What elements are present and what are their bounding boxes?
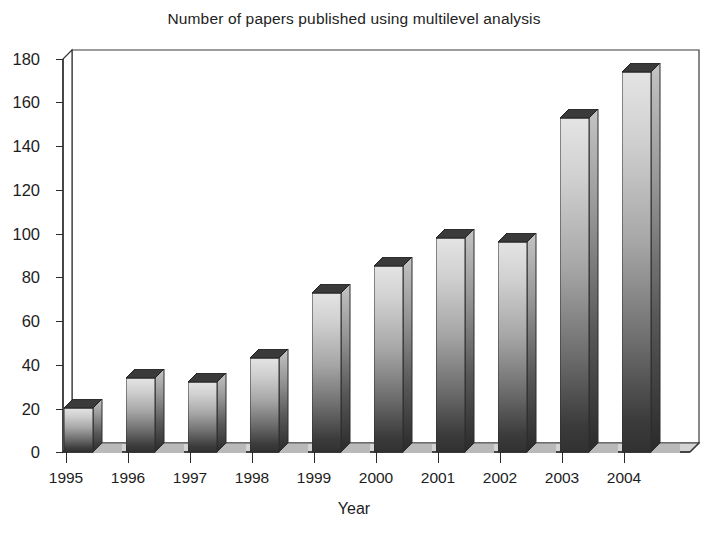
bar-1999[interactable] xyxy=(312,284,350,452)
bar-3d-faces xyxy=(64,399,104,454)
x-tick-label-2003: 2003 xyxy=(545,469,579,487)
x-tick-mark xyxy=(66,452,67,463)
x-tick-label-1995: 1995 xyxy=(49,469,83,487)
bar-3d-faces xyxy=(126,369,166,454)
x-axis-title: Year xyxy=(0,500,708,518)
x-tick-label-1999: 1999 xyxy=(297,469,331,487)
y-tick-label: 100 xyxy=(0,225,40,244)
y-tick-mark xyxy=(56,277,63,278)
y-tick-label: 60 xyxy=(0,312,40,331)
x-tick-mark xyxy=(562,452,563,463)
x-tick-label-1997: 1997 xyxy=(173,469,207,487)
y-tick-label: 20 xyxy=(0,400,40,419)
y-tick-mark xyxy=(56,190,63,191)
x-tick-mark xyxy=(376,452,377,463)
bar-1995[interactable] xyxy=(64,399,102,452)
bar-1996[interactable] xyxy=(126,369,164,452)
bar-3d-faces xyxy=(188,373,228,454)
x-tick-label-1996: 1996 xyxy=(111,469,145,487)
y-tick-mark xyxy=(56,146,63,147)
bar-1998[interactable] xyxy=(250,349,288,452)
y-tick-label: 80 xyxy=(0,268,40,287)
chart-container: Number of papers published using multile… xyxy=(0,0,708,534)
x-tick-label-2000: 2000 xyxy=(359,469,393,487)
y-tick-mark xyxy=(56,102,63,103)
x-tick-label-2004: 2004 xyxy=(607,469,641,487)
y-tick-label: 160 xyxy=(0,93,40,112)
bar-2004[interactable] xyxy=(622,63,660,452)
plot-area: 0 20 40 60 80 100 120 140 160 180 199519… xyxy=(0,0,708,534)
bar-3d-faces xyxy=(622,63,662,454)
x-tick-label-2001: 2001 xyxy=(421,469,455,487)
plot-frame xyxy=(0,0,708,534)
y-tick-label: 120 xyxy=(0,181,40,200)
x-tick-label-1998: 1998 xyxy=(235,469,269,487)
y-tick-mark xyxy=(56,365,63,366)
bar-2000[interactable] xyxy=(374,257,412,452)
bar-2001[interactable] xyxy=(436,229,474,452)
x-tick-mark xyxy=(314,452,315,463)
bar-3d-faces xyxy=(436,229,476,454)
bar-3d-faces xyxy=(374,257,414,454)
x-tick-mark xyxy=(500,452,501,463)
y-tick-label: 40 xyxy=(0,356,40,375)
y-tick-label: 180 xyxy=(0,50,40,69)
y-tick-mark xyxy=(56,452,63,453)
bar-3d-faces xyxy=(250,349,290,454)
bar-1997[interactable] xyxy=(188,373,226,452)
y-tick-mark xyxy=(56,321,63,322)
x-tick-mark xyxy=(438,452,439,463)
y-tick-mark xyxy=(56,234,63,235)
y-tick-mark xyxy=(56,409,63,410)
y-tick-label: 140 xyxy=(0,137,40,156)
x-tick-mark xyxy=(190,452,191,463)
bar-2002[interactable] xyxy=(498,233,536,452)
y-tick-mark xyxy=(56,59,63,60)
bar-2003[interactable] xyxy=(560,109,598,452)
x-tick-label-2002: 2002 xyxy=(483,469,517,487)
bar-3d-faces xyxy=(560,109,600,454)
x-tick-mark xyxy=(252,452,253,463)
x-tick-mark xyxy=(624,452,625,463)
bar-3d-faces xyxy=(312,284,352,454)
bar-3d-faces xyxy=(498,233,538,454)
y-tick-label: 0 xyxy=(0,443,40,462)
x-tick-mark xyxy=(128,452,129,463)
